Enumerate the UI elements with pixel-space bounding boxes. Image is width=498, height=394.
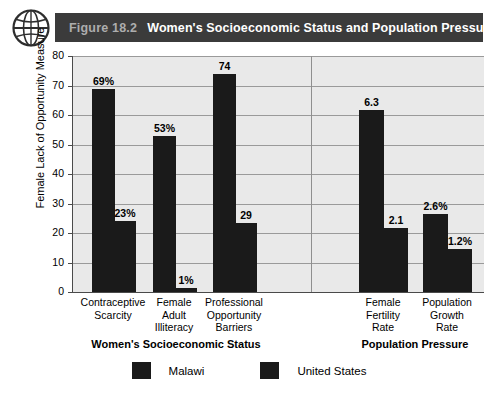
bar-value-label: 2.6% xyxy=(413,200,458,212)
bar-value-label: 1% xyxy=(165,274,207,286)
gridline xyxy=(73,115,484,116)
x-axis-category-line: Professional xyxy=(186,296,282,309)
y-axis-tick-mark xyxy=(68,86,72,87)
y-axis-tick-label: 0 xyxy=(38,285,64,297)
bar-value-label: 53% xyxy=(143,122,186,134)
gridline xyxy=(73,174,484,175)
figure-header-band: Figure 18.2 Women's Socioeconomic Status… xyxy=(55,13,483,42)
y-axis-tick-mark xyxy=(68,204,72,205)
legend-label: Malawi xyxy=(169,365,205,377)
bar xyxy=(114,221,136,292)
bar xyxy=(235,223,257,292)
bar xyxy=(384,228,408,292)
bar xyxy=(92,89,115,292)
legend-entry: Malawi xyxy=(132,362,205,379)
bar xyxy=(153,136,176,292)
panel-divider xyxy=(311,56,312,292)
bar xyxy=(175,288,197,292)
bar xyxy=(448,249,472,292)
bar-value-label: 29 xyxy=(225,209,267,221)
panel-group-title: Population Pressure xyxy=(305,338,498,350)
figure-number: Figure 18.2 xyxy=(69,21,137,35)
y-axis-tick-mark xyxy=(68,263,72,264)
y-axis-tick-label: 10 xyxy=(38,256,64,268)
x-axis-category-line: Opportunity xyxy=(186,309,282,322)
bar-value-label: 6.3 xyxy=(349,96,394,108)
x-axis-category-line: Growth xyxy=(399,309,495,322)
gridline xyxy=(73,145,484,146)
x-axis-category-line: Population xyxy=(399,296,495,309)
bar xyxy=(423,214,448,292)
gridline xyxy=(73,56,484,57)
y-axis-tick-mark xyxy=(68,233,72,234)
bar-value-label: 74 xyxy=(203,60,246,72)
x-axis-category-line: Barriers xyxy=(186,321,282,334)
bar-value-label: 69% xyxy=(82,75,125,87)
bar xyxy=(359,110,384,292)
x-axis-category-line: Rate xyxy=(399,321,495,334)
chart-plot-area: 69%23%53%1%74296.32.12.6%1.2% xyxy=(72,56,484,293)
y-axis-tick-mark xyxy=(68,174,72,175)
bar-value-label: 1.2% xyxy=(438,235,482,247)
figure-title: Women's Socioeconomic Status and Populat… xyxy=(147,21,498,35)
x-axis-category-label: ProfessionalOpportunityBarriers xyxy=(186,296,282,334)
bar-value-label: 23% xyxy=(104,207,146,219)
gridline xyxy=(73,86,484,87)
y-axis-title: Female Lack of Opportunity Measure xyxy=(34,2,46,234)
chart-legend: MalawiUnited States xyxy=(0,362,498,379)
y-axis-tick-mark xyxy=(68,56,72,57)
x-axis-category-label: PopulationGrowthRate xyxy=(399,296,495,334)
bar xyxy=(213,74,236,292)
y-axis-tick-mark xyxy=(68,292,72,293)
legend-swatch xyxy=(260,362,279,379)
legend-label: United States xyxy=(297,365,366,377)
panel-group-title: Women's Socioeconomic Status xyxy=(66,338,286,350)
y-axis-tick-mark xyxy=(68,115,72,116)
bar-value-label: 2.1 xyxy=(374,214,418,226)
legend-swatch xyxy=(132,362,151,379)
legend-entry: United States xyxy=(260,362,366,379)
y-axis-tick-mark xyxy=(68,145,72,146)
